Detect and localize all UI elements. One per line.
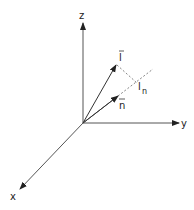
y-axis: y: [83, 118, 187, 129]
n-direction-line: [118, 69, 153, 96]
vector-l: l: [83, 51, 124, 123]
vector-l-label: l: [119, 52, 122, 63]
vector-n-label: n: [119, 100, 125, 111]
projection-label-sub: n: [142, 87, 147, 96]
z-axis: z: [79, 10, 84, 123]
x-axis-label: x: [10, 191, 16, 202]
projection-line: [117, 65, 137, 83]
projection-label-main: l: [138, 81, 141, 92]
z-axis-label: z: [79, 10, 84, 21]
x-axis: x: [10, 123, 83, 202]
vector-projection-diagram: z y x l n l n: [0, 0, 194, 210]
vector-n: n: [83, 96, 125, 123]
projection-label: l n: [138, 81, 147, 96]
y-axis-label: y: [181, 118, 187, 129]
